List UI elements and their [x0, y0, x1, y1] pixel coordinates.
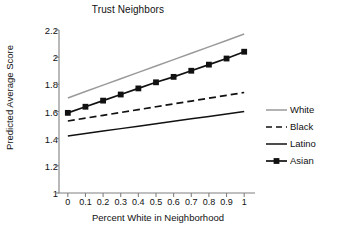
legend-label: Asian	[290, 155, 314, 166]
chart-legend: WhiteBlackLatinoAsian	[266, 101, 344, 169]
x-axis-tick-label: 0	[65, 197, 70, 207]
legend-key-latino-icon	[266, 139, 287, 149]
x-axis-tick-labels: 00.10.20.30.40.50.60.70.80.91	[0, 197, 344, 213]
series-marker-asian	[100, 98, 106, 104]
x-axis-tick-label: 0.2	[97, 197, 110, 207]
series-marker-asian	[153, 79, 159, 85]
series-line-white	[68, 34, 244, 98]
legend-item-latino[interactable]: Latino	[266, 135, 344, 152]
series-marker-asian	[135, 86, 141, 92]
legend-item-asian[interactable]: Asian	[266, 152, 344, 169]
x-axis-tick-label: 0.7	[185, 197, 198, 207]
axis-spine	[59, 30, 255, 193]
x-axis-tick-label: 0.9	[220, 197, 233, 207]
x-axis-tick-label: 0.1	[79, 197, 92, 207]
series-marker-asian	[188, 68, 194, 74]
series-marker-asian	[171, 74, 177, 80]
legend-item-black[interactable]: Black	[266, 118, 344, 135]
series-marker-asian	[241, 49, 247, 55]
legend-key-black-icon	[266, 122, 287, 132]
legend-label: Black	[290, 121, 313, 132]
series-marker-asian	[83, 104, 89, 110]
series-line-black	[68, 92, 244, 121]
x-axis-tick-label: 1	[242, 197, 247, 207]
series-marker-asian	[206, 62, 212, 68]
series-line-latino	[68, 112, 244, 136]
legend-label: Latino	[290, 138, 316, 149]
x-axis-tick-label: 0.6	[167, 197, 180, 207]
series-marker-asian	[65, 110, 71, 116]
legend-item-white[interactable]: White	[266, 101, 344, 118]
series-marker-asian	[224, 56, 230, 62]
legend-key-white-icon	[266, 105, 287, 115]
x-axis-tick-label: 0.5	[150, 197, 163, 207]
x-axis-tick-label: 0.3	[114, 197, 127, 207]
legend-label: White	[290, 104, 314, 115]
x-axis-tick-label: 0.4	[132, 197, 145, 207]
legend-key-asian-icon	[266, 156, 287, 166]
series-marker-asian	[118, 92, 124, 98]
x-axis-tick-label: 0.8	[203, 197, 216, 207]
x-axis-label: Percent White in Neighborhood	[58, 212, 258, 223]
chart-figure: Trust Neighbors Predicted Average Score …	[0, 0, 344, 234]
